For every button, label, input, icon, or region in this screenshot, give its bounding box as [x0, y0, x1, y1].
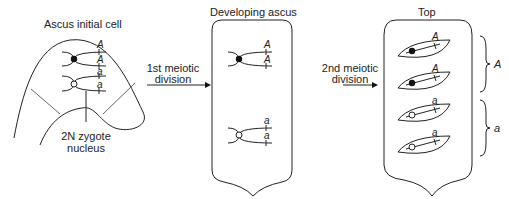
- gene-label: A: [264, 40, 271, 50]
- bracket-label-a: a: [494, 123, 500, 133]
- arrow1-label-2: division: [140, 73, 206, 85]
- final-ascus-title: Top: [418, 6, 436, 18]
- gene-label: a: [97, 80, 103, 90]
- arrow2-label-2: division: [320, 73, 380, 85]
- gene-label: A: [97, 55, 104, 65]
- nucleus-label-1: 2N zygote: [56, 130, 116, 142]
- gene-label: a: [97, 67, 103, 77]
- ascus-initial-title: Ascus initial cell: [44, 18, 122, 30]
- spore-gene-label: a: [432, 96, 438, 106]
- final-ascus-outline: [384, 20, 472, 196]
- developing-ascus-title: Developing ascus: [210, 6, 297, 18]
- spore-gene-label: A: [432, 32, 439, 42]
- gene-label: a: [264, 116, 270, 126]
- developing-ascus-outline: [212, 20, 292, 196]
- gene-label: A: [264, 55, 271, 65]
- spore-gene-label: A: [432, 64, 439, 74]
- bracket-label-A: A: [494, 59, 501, 69]
- gene-label: A: [97, 40, 104, 50]
- spore-gene-label: a: [432, 128, 438, 138]
- gene-label: a: [264, 131, 270, 141]
- nucleus-label-2: nucleus: [56, 142, 116, 154]
